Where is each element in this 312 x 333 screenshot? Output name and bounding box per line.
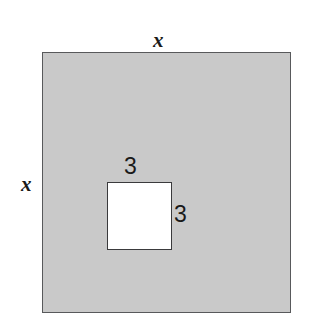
inner-square-right-side-label: 3 xyxy=(174,203,187,226)
geometry-figure: x x 3 3 xyxy=(0,0,312,333)
large-shaded-square xyxy=(42,52,291,313)
inner-square-top-side-label: 3 xyxy=(124,155,137,178)
outer-square-top-side-label: x xyxy=(153,30,164,51)
outer-square-left-side-label: x xyxy=(21,174,32,195)
small-white-square xyxy=(107,182,172,250)
